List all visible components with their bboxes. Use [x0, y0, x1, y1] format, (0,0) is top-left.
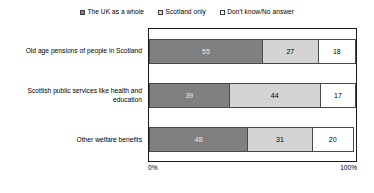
bar-value-label: 44: [271, 92, 279, 99]
bar-segment-uk: 39: [149, 83, 230, 108]
legend-entry-uk-as-a-whole: The UK as a whole: [80, 9, 144, 16]
axis-tick-label-min: 0%: [148, 165, 158, 172]
bar-value-label: 31: [276, 136, 284, 143]
legend-swatch-scotland-icon: [158, 10, 163, 15]
plot-area: 55 27 18 39 44 17: [148, 28, 357, 162]
axis-tick-label-max: 100%: [340, 165, 357, 172]
bar-segment-uk: 55: [149, 39, 263, 64]
category-label-other-welfare-benefits: Other welfare benefits: [0, 127, 145, 152]
bar-segment-scotland: 31: [248, 127, 312, 152]
table-row: 39 44 17: [149, 83, 356, 108]
legend-entry-dont-know: Don't know/No answer: [220, 9, 294, 16]
bar-value-label: 20: [329, 136, 337, 143]
bar-value-label: 48: [195, 136, 203, 143]
bar-value-label: 39: [185, 92, 193, 99]
bar-segment-dont-know: 20: [313, 127, 354, 152]
bar-segment-dont-know: 18: [319, 39, 356, 64]
bar-value-label: 27: [286, 48, 294, 55]
bar-rows: 55 27 18 39 44 17: [149, 29, 356, 161]
legend-label-dont-know: Don't know/No answer: [227, 9, 294, 16]
category-axis-labels: Old age pensions of people in Scotland S…: [0, 28, 145, 162]
bar-segment-uk: 48: [149, 127, 248, 152]
table-row: 55 27 18: [149, 39, 356, 64]
bar-value-label: 55: [202, 48, 210, 55]
stacked-bar-chart: The UK as a whole Scotland only Don't kn…: [0, 0, 374, 193]
bar-value-label: 17: [334, 92, 342, 99]
bar-segment-scotland: 27: [263, 39, 319, 64]
table-row: 48 31 20: [149, 127, 356, 152]
legend-swatch-uk-icon: [80, 10, 85, 15]
chart-legend: The UK as a whole Scotland only Don't kn…: [0, 9, 374, 16]
bar-value-label: 18: [333, 48, 341, 55]
category-label-old-age-pensions: Old age pensions of people in Scotland: [0, 38, 145, 63]
category-label-scottish-public-services: Scottish public services like health and…: [0, 82, 145, 107]
legend-swatch-dontknow-icon: [220, 10, 225, 15]
legend-label-uk-as-a-whole: The UK as a whole: [87, 9, 144, 16]
legend-entry-scotland-only: Scotland only: [158, 9, 206, 16]
bar-segment-scotland: 44: [230, 83, 321, 108]
bar-segment-dont-know: 17: [321, 83, 356, 108]
legend-label-scotland-only: Scotland only: [166, 9, 206, 16]
